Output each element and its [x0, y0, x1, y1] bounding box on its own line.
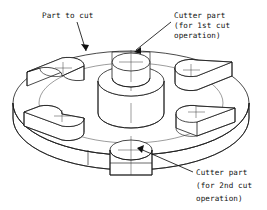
drawing-canvas: Part to cut Cutter part (for 1st cut ope… — [0, 0, 267, 210]
label-cutter-1st-line-2: (for 1st cut — [174, 21, 230, 30]
label-cutter-part-1st: Cutter part (for 1st cut operation) — [174, 11, 230, 40]
label-cutter-2nd-line-1: Cutter part — [196, 168, 247, 177]
leader-line-2 — [136, 22, 171, 50]
round-pocket-top-center — [112, 50, 150, 87]
label-part-to-cut: Part to cut — [42, 11, 93, 20]
label-cutter-2nd-line-2: (for 2nd cut — [196, 181, 252, 190]
label-cutter-1st-line-1: Cutter part — [174, 11, 225, 20]
leader-cutter-1st — [134, 22, 171, 54]
isometric-part-drawing: Part to cut Cutter part (for 1st cut ope… — [0, 0, 267, 210]
label-cutter-part-2nd: Cutter part (for 2nd cut operation) — [196, 168, 252, 203]
leader-part-to-cut — [77, 22, 89, 51]
label-cutter-2nd-line-3: operation) — [196, 194, 243, 203]
label-part-to-cut-line-1: Part to cut — [42, 11, 93, 20]
label-cutter-1st-line-3: operation) — [174, 31, 221, 40]
arrowhead-part-to-cut — [81, 44, 89, 51]
